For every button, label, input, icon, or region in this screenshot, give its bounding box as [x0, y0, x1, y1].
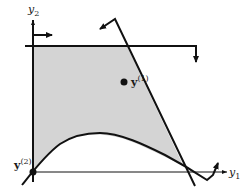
point-y2	[30, 169, 37, 176]
y2-axis-label: y2	[27, 3, 39, 18]
point-y2-label: y(2)	[13, 157, 32, 172]
y1-axis-label: y1	[228, 166, 240, 181]
point-y1	[121, 79, 128, 86]
y2-axis-direction-arrow	[33, 35, 52, 36]
diagram-canvas: y(1) y(2) y2 y1	[0, 0, 244, 193]
